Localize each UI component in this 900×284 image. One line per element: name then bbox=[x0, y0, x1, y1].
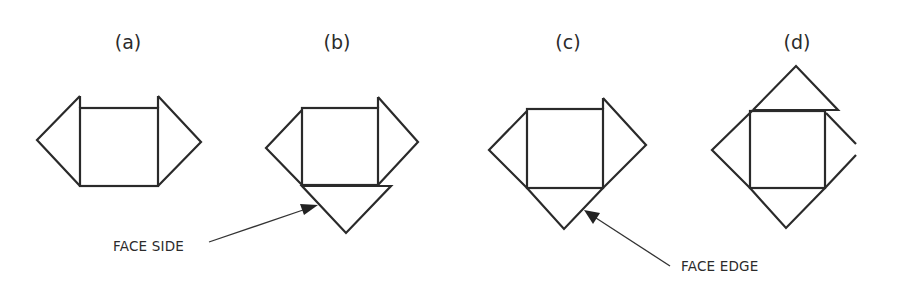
arrow-head-icon bbox=[584, 210, 600, 224]
square-b bbox=[302, 108, 378, 185]
arrow-head-icon bbox=[300, 204, 318, 215]
left-triangle-a bbox=[37, 96, 80, 186]
square-c bbox=[527, 109, 603, 188]
top-triangle-d bbox=[753, 66, 838, 110]
figure-a bbox=[37, 96, 201, 186]
callout-face-edge: FACE EDGE bbox=[584, 210, 759, 274]
bottom-triangle-d bbox=[750, 188, 825, 228]
figure-b bbox=[266, 97, 418, 233]
left-triangle-b bbox=[266, 110, 302, 185]
figure-label-a: (a) bbox=[115, 31, 141, 53]
bottom-triangle-c bbox=[527, 188, 603, 229]
left-triangle-c bbox=[489, 111, 527, 188]
right-triangle-b bbox=[378, 97, 418, 185]
right-triangle-c bbox=[603, 98, 646, 188]
figure-label-d: (d) bbox=[784, 31, 811, 53]
face-side-arrow bbox=[209, 209, 306, 242]
bottom-triangle-b bbox=[302, 186, 391, 233]
right-triangle-a bbox=[158, 96, 201, 186]
face-edge-arrow bbox=[596, 218, 670, 266]
right-triangle-d bbox=[826, 113, 856, 144]
callout-face-side: FACE SIDE bbox=[113, 204, 318, 254]
face-side-label: FACE SIDE bbox=[113, 238, 184, 254]
square-a bbox=[80, 108, 158, 186]
figure-c bbox=[489, 98, 646, 229]
square-d bbox=[750, 111, 825, 188]
figure-label-c: (c) bbox=[555, 31, 580, 53]
figure-d bbox=[712, 66, 856, 228]
left-triangle-d bbox=[712, 110, 753, 188]
right-triangle-d-lower bbox=[825, 155, 856, 188]
face-edge-label: FACE EDGE bbox=[681, 258, 759, 274]
diagram-canvas: (a) (b) (c) (d) FACE SIDE FACE EDGE bbox=[0, 0, 900, 284]
figure-label-b: (b) bbox=[324, 31, 351, 53]
